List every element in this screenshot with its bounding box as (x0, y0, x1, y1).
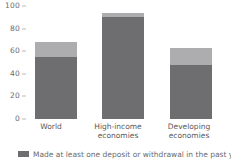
bar-world-segment-dark (35, 57, 77, 119)
x-axis-label-developing-economies: Developing economies (149, 122, 229, 140)
y-axis: 100 80 60 40 20 0 (0, 0, 20, 125)
bar-high-income-economies (102, 13, 144, 119)
x-axis-label-high-income-line-2: economies (81, 131, 155, 140)
x-axis-label-high-income-economies: High-income economies (81, 122, 155, 140)
x-axis-label-high-income-line-1: High-income (81, 122, 155, 131)
legend-swatch-deposit-withdrawal (18, 151, 29, 157)
bar-developing-segment-dark (170, 65, 212, 119)
chart-legend: Made at least one deposit or withdrawal … (18, 150, 231, 159)
y-axis-label-20: 20 (10, 93, 20, 101)
bar-world (35, 42, 77, 119)
y-axis-label-80: 80 (10, 25, 20, 33)
y-axis-label-40: 40 (10, 70, 20, 78)
bar-world-segment-light (35, 42, 77, 57)
y-axis-label-60: 60 (10, 47, 20, 55)
plot-area (26, 6, 231, 119)
x-axis-label-world-line-1: World (14, 122, 88, 131)
stacked-bar-chart: 100 80 60 40 20 0 World High-income econ… (0, 0, 231, 160)
x-axis-label-developing-line-2: economies (149, 131, 229, 140)
y-axis-label-100: 100 (5, 2, 20, 10)
legend-label-deposit-withdrawal: Made at least one deposit or withdrawal … (33, 150, 231, 159)
bar-developing-segment-light (170, 48, 212, 65)
bar-developing-economies (170, 48, 212, 119)
x-axis-label-developing-line-1: Developing (149, 122, 229, 131)
bar-high-income-segment-dark (102, 17, 144, 119)
x-axis-label-world: World (14, 122, 88, 131)
